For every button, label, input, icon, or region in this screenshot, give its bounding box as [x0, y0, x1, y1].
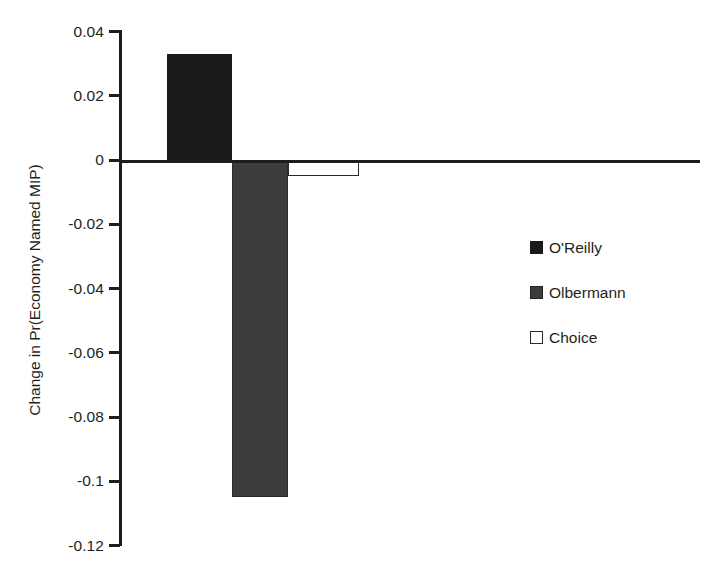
legend-swatch-icon: [530, 286, 543, 299]
legend-item-choice[interactable]: Choice: [530, 315, 700, 360]
legend-swatch-icon: [530, 331, 543, 344]
legend-label: O'Reilly: [549, 240, 602, 256]
legend-label: Olbermann: [549, 285, 626, 301]
bar-chart-figure: Change in Pr(Economy Named MIP) 0.040.02…: [0, 0, 714, 580]
chart-legend: O'ReillyOlbermannChoice: [530, 225, 700, 360]
legend-item-olbermann[interactable]: Olbermann: [530, 270, 700, 315]
legend-item-o-reilly[interactable]: O'Reilly: [530, 225, 700, 270]
zero-baseline: [119, 160, 700, 163]
bar-o-reilly: [167, 54, 232, 160]
bar-olbermann: [232, 160, 288, 497]
legend-label: Choice: [549, 330, 597, 346]
legend-swatch-icon: [530, 241, 543, 254]
